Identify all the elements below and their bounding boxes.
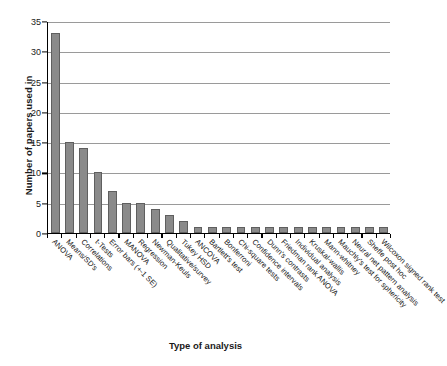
- y-tick-label: 30: [1, 47, 41, 57]
- bar: [308, 227, 317, 233]
- bar: [351, 227, 360, 233]
- bar: [322, 227, 331, 233]
- y-tick-label: 15: [1, 138, 41, 148]
- bar: [208, 227, 217, 233]
- bar: [136, 203, 145, 233]
- bar: [79, 148, 88, 233]
- bar: [237, 227, 246, 233]
- y-tick-label: 35: [1, 17, 41, 27]
- bar: [94, 172, 103, 233]
- bar: [194, 227, 203, 233]
- bar: [294, 227, 303, 233]
- bar: [279, 227, 288, 233]
- bar: [151, 209, 160, 233]
- bar: [51, 33, 60, 233]
- bar: [251, 227, 260, 233]
- x-axis-category-labels: ANOVAMeans/SD'sCorrelationst-TestsError …: [47, 238, 390, 338]
- y-tick-label: 5: [1, 199, 41, 209]
- y-axis-tick-labels: 05101520253035: [0, 22, 47, 234]
- y-tick-label: 10: [1, 168, 41, 178]
- bar: [122, 203, 131, 233]
- y-tick-label: 25: [1, 78, 41, 88]
- bar: [179, 221, 188, 233]
- plot-area: [47, 22, 390, 234]
- y-tick-label: 0: [1, 229, 41, 239]
- bar: [265, 227, 274, 233]
- bar: [337, 227, 346, 233]
- bar-series: [48, 22, 390, 233]
- x-axis-title: Type of analysis: [0, 340, 411, 351]
- bar: [108, 191, 117, 233]
- y-tick-label: 20: [1, 108, 41, 118]
- x-tick-mark: [390, 234, 391, 238]
- bar: [365, 227, 374, 233]
- bar: [222, 227, 231, 233]
- bar: [379, 227, 388, 233]
- bar: [165, 215, 174, 233]
- bar: [65, 142, 74, 233]
